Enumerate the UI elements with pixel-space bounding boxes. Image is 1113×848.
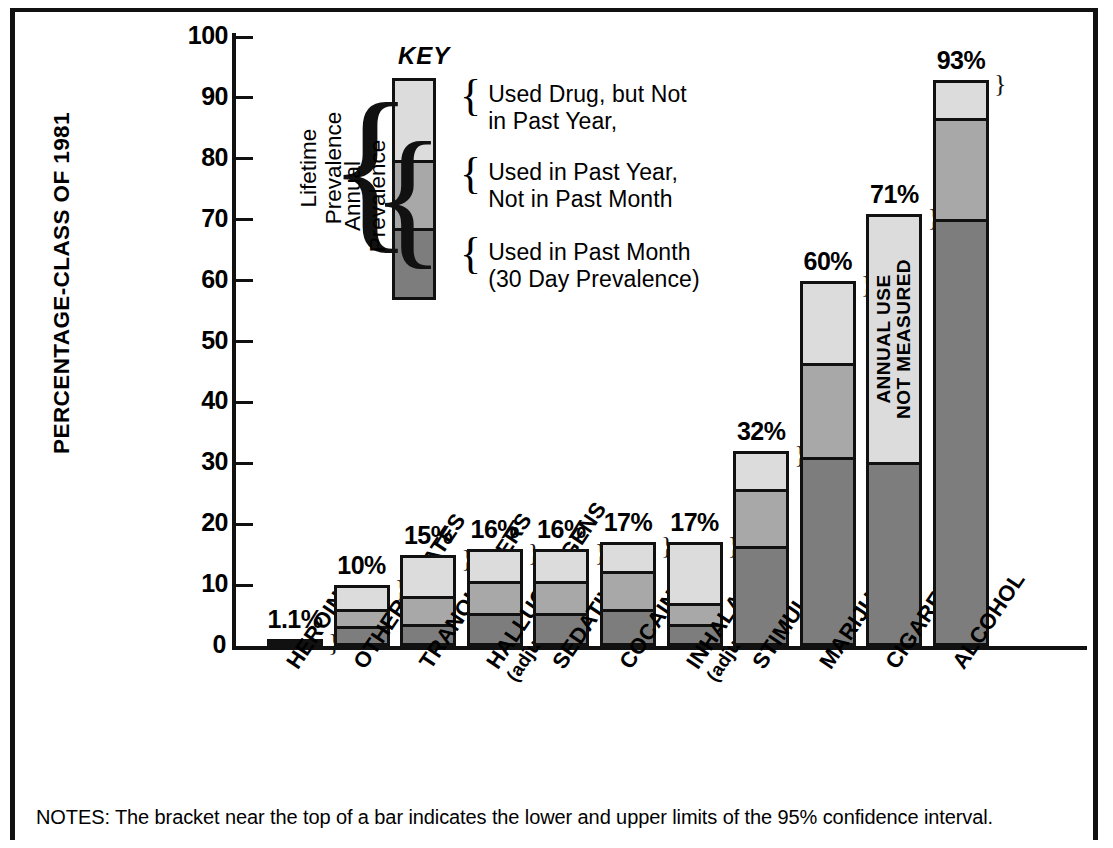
bar-segment-light	[670, 545, 720, 603]
bar-segment-dark	[936, 219, 986, 643]
y-tick-label-100: 100	[160, 23, 228, 48]
y-tick-80	[236, 157, 253, 160]
bar-value-label: 10%	[320, 553, 404, 578]
y-tick-10	[236, 584, 253, 587]
annual-brace-icon: {	[371, 132, 445, 260]
bar-value-label: 17%	[653, 510, 737, 535]
legend-entry-line2: Not in Past Month	[488, 186, 678, 213]
legend-brace-icon: {	[460, 78, 481, 114]
frame-right-border	[1093, 8, 1098, 840]
legend-title: KEY	[398, 42, 450, 70]
y-tick-label-80: 80	[160, 145, 228, 170]
bar-segment-light	[803, 284, 853, 364]
annotation-line1: ANNUAL USE	[874, 259, 894, 419]
prevalence-label-line1: Annual	[340, 132, 365, 260]
bar-segment-light	[936, 83, 986, 119]
bar-segment-light	[470, 552, 520, 581]
bar-segment-light: ANNUAL USENOT MEASURED	[869, 217, 919, 462]
frame-top-border	[10, 8, 1098, 12]
y-tick-40	[236, 401, 253, 404]
y-tick-label-30: 30	[160, 449, 228, 474]
bar-annotation-annual-not-measured: ANNUAL USENOT MEASURED	[874, 259, 914, 419]
y-tick-label-90: 90	[160, 84, 228, 109]
legend-entry-1: {Used in Past Year,Not in Past Month	[460, 156, 678, 212]
bar-segment-mid	[603, 571, 653, 609]
confidence-interval-bracket: }	[994, 71, 1006, 97]
annotation-line2: NOT MEASURED	[894, 259, 914, 419]
legend-entry-line1: Used in Past Month	[488, 239, 700, 266]
bar-segment-light	[337, 588, 387, 609]
legend-entry-0: {Used Drug, but Notin Past Year,	[460, 78, 687, 134]
bar-marijuana	[800, 281, 856, 646]
y-tick-70	[236, 218, 253, 221]
legend-entry-2: {Used in Past Month(30 Day Prevalence)	[460, 236, 700, 292]
bar-segment-mid	[536, 581, 586, 613]
bar-value-label: 60%	[786, 249, 870, 274]
bar-value-label: 71%	[852, 182, 936, 207]
bar-cigarettes: ANNUAL USENOT MEASURED	[866, 214, 922, 646]
y-tick-label-50: 50	[160, 328, 228, 353]
legend-entry-text: Used in Past Month(30 Day Prevalence)	[488, 236, 700, 292]
legend-entry-line2: in Past Year,	[488, 108, 687, 135]
bar-segment-light	[403, 558, 453, 596]
bar-segment-mid	[803, 363, 853, 457]
bar-segment-light	[536, 552, 586, 582]
y-tick-90	[236, 96, 253, 99]
y-tick-label-10: 10	[160, 571, 228, 596]
legend-brace-icon: {	[460, 236, 481, 272]
bar-segment-mid	[936, 118, 986, 218]
y-tick-label-60: 60	[160, 267, 228, 292]
bar-segment-mid	[470, 581, 520, 613]
y-tick-label-0: 0	[158, 632, 226, 657]
y-tick-100	[236, 36, 253, 39]
y-tick-label-70: 70	[160, 206, 228, 231]
bar-alcohol	[933, 80, 989, 646]
y-tick-30	[236, 462, 253, 465]
y-tick-60	[236, 279, 253, 282]
y-tick-label-20: 20	[160, 510, 228, 535]
legend-entry-text: Used Drug, but Notin Past Year,	[488, 78, 687, 134]
y-tick-label-40: 40	[160, 388, 228, 413]
bar-segment-light	[736, 454, 786, 489]
legend-entry-text: Used in Past Year,Not in Past Month	[488, 156, 678, 212]
y-axis-title: PERCENTAGE-CLASS OF 1981	[49, 73, 75, 493]
y-tick-20	[236, 523, 253, 526]
y-tick-50	[236, 340, 253, 343]
bar-segment-light	[603, 545, 653, 571]
prevalence-label-line1: Lifetime	[296, 92, 321, 244]
notes-text: NOTES: The bracket near the top of a bar…	[36, 806, 993, 829]
bar-value-label: 32%	[719, 419, 803, 444]
legend-entry-line1: Used in Past Year,	[488, 159, 678, 186]
bar-segment-mid	[736, 489, 786, 546]
legend-entry-line1: Used Drug, but Not	[488, 81, 687, 108]
legend-brace-icon: {	[460, 156, 481, 192]
bar-value-label: 93%	[919, 48, 1003, 73]
legend-entry-line2: (30 Day Prevalence)	[488, 266, 700, 293]
